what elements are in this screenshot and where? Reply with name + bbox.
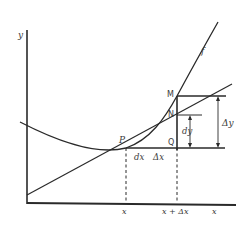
axes [27, 30, 236, 205]
delta-x-label: Δx [152, 152, 164, 162]
delta-y-arrow [216, 96, 220, 148]
dx-label: dx [134, 152, 144, 162]
point-P-label: P [118, 135, 126, 145]
point-N-label: N [168, 110, 174, 119]
delta-y-label: Δy [221, 118, 234, 128]
point-Q-label: Q [168, 138, 174, 147]
x-axis-label: x [212, 207, 217, 216]
tick-label-x: x [122, 207, 127, 216]
y-axis-label: y [17, 30, 24, 40]
dy-label: dy [182, 126, 192, 136]
differential-diagram: y f P Q M N dx Δx dy Δy x x + Δx x [0, 0, 252, 225]
tick-label-x-plus-delta-x: x + Δx [162, 207, 189, 216]
point-M-label: M [167, 90, 174, 99]
curve-f-label: f [200, 46, 206, 56]
x-axis [27, 203, 236, 205]
